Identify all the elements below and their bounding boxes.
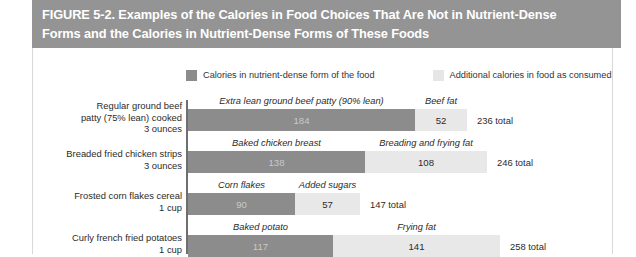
segment-caption-light-0: Beef fat: [415, 96, 467, 106]
bar-segment-light-0: 52: [415, 109, 467, 131]
chart-legend: Calories in nutrient-dense form of the f…: [186, 68, 616, 82]
bar-segment-dark-3: 117: [188, 235, 333, 257]
row-label-ground-beef: Regular ground beef patty (75% lean) coo…: [22, 100, 182, 135]
bar-ground-beef: 184 52: [188, 109, 467, 131]
row-label-chicken-strips: Breaded fried chicken strips 3 ounces: [22, 148, 182, 171]
bar-french-fries: 117 141: [188, 235, 500, 257]
bar-segment-dark-2: 90: [188, 193, 295, 215]
bar-corn-flakes: 90 57: [188, 193, 360, 215]
row-label-corn-flakes: Frosted corn flakes cereal 1 cup: [22, 190, 182, 213]
legend-item-nutrient-dense: Calories in nutrient-dense form of the f…: [186, 70, 375, 81]
figure-title-band: FIGURE 5-2. Examples of the Calories in …: [32, 0, 621, 48]
segment-caption-light-1: Breading and frying fat: [365, 138, 487, 148]
row-label-french-fries: Curly french fried potatoes 1 cup: [22, 232, 182, 255]
legend-swatch-dark-icon: [186, 70, 197, 81]
stacked-bar-chart: Regular ground beef patty (75% lean) coo…: [0, 96, 636, 254]
row-total-corn-flakes: 147 total: [370, 193, 406, 215]
legend-label-nutrient-dense: Calories in nutrient-dense form of the f…: [203, 70, 375, 80]
row-total-chicken-strips: 246 total: [497, 151, 533, 173]
bar-segment-light-1: 108: [365, 151, 487, 173]
segment-caption-light-2: Added sugars: [295, 180, 360, 190]
table-row: Curly french fried potatoes 1 cup Baked …: [0, 222, 636, 254]
row-total-ground-beef: 236 total: [477, 109, 513, 131]
segment-caption-dark-3: Baked potato: [188, 222, 333, 232]
legend-swatch-light-icon: [433, 70, 444, 81]
table-row: Breaded fried chicken strips 3 ounces Ba…: [0, 138, 636, 178]
segment-caption-dark-2: Corn flakes: [188, 180, 295, 190]
legend-item-additional-calories: Additional calories in food as consumed: [433, 70, 612, 81]
bar-segment-dark-0: 184: [188, 109, 415, 131]
bar-chicken-strips: 138 108: [188, 151, 487, 173]
segment-caption-light-3: Frying fat: [333, 222, 500, 232]
segment-caption-dark-0: Extra lean ground beef patty (90% lean): [188, 96, 415, 106]
legend-label-additional-calories: Additional calories in food as consumed: [450, 70, 612, 80]
bar-segment-dark-1: 138: [188, 151, 365, 173]
segment-caption-dark-1: Baked chicken breast: [188, 138, 365, 148]
table-row: Regular ground beef patty (75% lean) coo…: [0, 96, 636, 136]
bar-segment-light-2: 57: [295, 193, 360, 215]
table-row: Frosted corn flakes cereal 1 cup Corn fl…: [0, 180, 636, 220]
row-total-french-fries: 258 total: [510, 235, 546, 257]
figure-title: FIGURE 5-2. Examples of the Calories in …: [42, 5, 611, 43]
bar-segment-light-3: 141: [333, 235, 500, 257]
